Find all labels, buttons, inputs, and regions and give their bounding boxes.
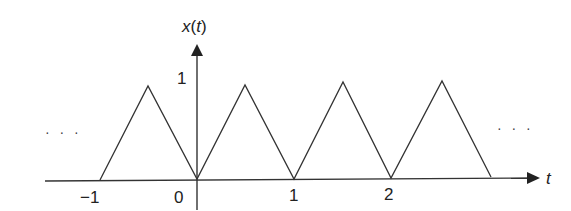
- triangular-wave-diagram: x(t) 1 −1 0 1 2 t · · · · · ·: [0, 0, 571, 211]
- y-tick-label-1: 1: [177, 69, 186, 88]
- x-axis-label: t: [546, 169, 552, 188]
- x-tick-label-0: 0: [174, 188, 183, 207]
- x-tick-label-neg1: −1: [80, 188, 99, 207]
- x-tick-label-1: 1: [289, 186, 298, 205]
- left-ellipsis: · · ·: [45, 124, 82, 140]
- x-tick-label-2: 2: [384, 185, 393, 204]
- t-axis-arrow-icon: [527, 172, 540, 184]
- t-axis: [45, 178, 533, 181]
- x-axis-arrow-icon: [191, 44, 203, 56]
- waveform-line: [100, 81, 491, 180]
- right-ellipsis: · · ·: [497, 120, 534, 136]
- y-axis-label: x(t): [181, 17, 207, 36]
